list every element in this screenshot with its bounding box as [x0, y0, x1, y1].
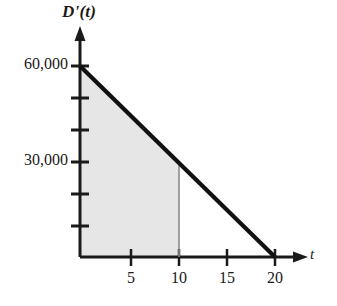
x-tick-label-20: 20 — [258, 269, 292, 287]
x-tick-label-10: 10 — [162, 269, 196, 287]
chart-figure: D'(t) t 60,000 30,000 5 10 15 20 — [0, 0, 337, 306]
x-tick-label-15: 15 — [210, 269, 244, 287]
y-axis-label: D'(t) — [62, 2, 96, 22]
y-axis-arrow-icon — [75, 26, 86, 41]
x-axis-arrow-icon — [293, 252, 308, 263]
y-tick-label-60000: 60,000 — [0, 55, 68, 73]
x-tick-label-5: 5 — [114, 269, 148, 287]
shaded-area-region — [80, 66, 179, 257]
x-axis-label: t — [310, 246, 314, 263]
y-tick-label-30000: 30,000 — [0, 151, 68, 169]
